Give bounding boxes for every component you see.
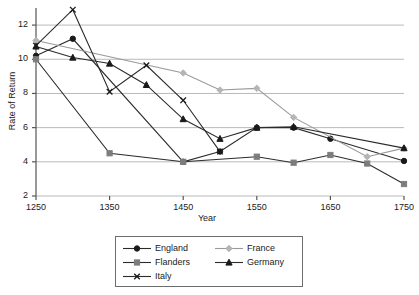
plot-canvas — [0, 0, 414, 232]
x-axis-title: Year — [0, 213, 414, 223]
x-tick-label-1250: 1250 — [16, 202, 56, 212]
legend-symbol-france — [214, 243, 244, 254]
legend-marker-flanders — [134, 259, 139, 264]
legend-marker-england — [134, 245, 139, 250]
point-italy-1450 — [180, 97, 186, 103]
legend-label-italy: Italy — [155, 271, 172, 281]
point-france-1450 — [180, 70, 186, 76]
point-italy-1300 — [70, 7, 76, 13]
legend-entry-flanders[interactable]: Flanders — [122, 257, 214, 268]
point-france-1700 — [364, 153, 370, 159]
point-flanders-1750 — [401, 181, 406, 186]
legend-entry-england[interactable]: England — [122, 243, 214, 254]
legend-symbol-flanders — [122, 257, 152, 268]
legend-label-germany: Germany — [247, 257, 284, 267]
point-flanders-1250 — [33, 57, 38, 62]
legend-label-england: England — [155, 243, 188, 253]
x-tick-label-1550: 1550 — [237, 202, 277, 212]
legend-symbol-italy — [122, 271, 152, 282]
point-flanders-1550 — [254, 154, 259, 159]
series-italy — [33, 7, 223, 154]
chart-legend: EnglandFranceFlandersGermanyItaly — [115, 236, 303, 287]
rate-of-return-line-chart: Rate of Return Year 24681012 12501350145… — [0, 0, 414, 232]
x-tick-label-1350: 1350 — [90, 202, 130, 212]
series-england — [33, 36, 406, 164]
axis-ticks — [32, 25, 404, 200]
y-tick-label-8: 8 — [6, 87, 28, 97]
legend-label-france: France — [247, 243, 275, 253]
line-flanders — [36, 59, 404, 184]
point-germany-1400 — [143, 82, 149, 88]
y-tick-label-12: 12 — [6, 19, 28, 29]
legend-marker-france — [226, 245, 232, 251]
point-france-1500 — [217, 87, 223, 93]
y-tick-label-2: 2 — [6, 190, 28, 200]
x-tick-label-1450: 1450 — [163, 202, 203, 212]
y-tick-label-10: 10 — [6, 53, 28, 63]
point-flanders-1600 — [291, 160, 296, 165]
point-flanders-1350 — [107, 151, 112, 156]
line-italy — [36, 10, 220, 152]
point-england-1300 — [70, 36, 75, 41]
legend-symbol-england — [122, 243, 152, 254]
line-germany — [36, 46, 404, 148]
point-flanders-1650 — [328, 152, 333, 157]
point-flanders-1450 — [181, 159, 186, 164]
point-flanders-1700 — [365, 161, 370, 166]
legend-entry-france[interactable]: France — [214, 243, 306, 254]
x-tick-label-1750: 1750 — [384, 202, 419, 212]
legend-entry-italy[interactable]: Italy — [122, 271, 214, 282]
x-tick-label-1650: 1650 — [310, 202, 350, 212]
point-england-1750 — [401, 158, 406, 163]
line-england — [36, 39, 404, 162]
legend-entry-germany[interactable]: Germany — [214, 257, 306, 268]
y-tick-label-6: 6 — [6, 122, 28, 132]
legend-symbol-germany — [214, 257, 244, 268]
series-flanders — [33, 57, 406, 187]
data-series-layer — [33, 7, 407, 187]
legend-label-flanders: Flanders — [155, 257, 190, 267]
y-tick-label-4: 4 — [6, 156, 28, 166]
